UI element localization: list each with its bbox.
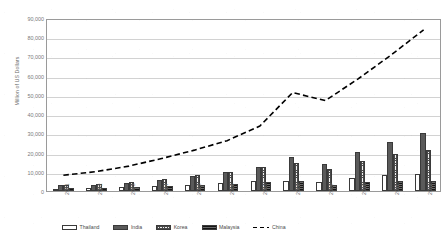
x-axis-tick-label: 2004 (163, 183, 169, 195)
legend-label: Malaysia (219, 224, 239, 230)
legend-item-korea: Korea (156, 224, 187, 230)
x-axis-tick-label: 2001 (64, 183, 70, 195)
legend-swatch-thailand (62, 225, 77, 230)
x-axis-tick-label: 2005 (196, 183, 202, 195)
y-axis-tick-label: 70,000 (28, 54, 45, 60)
x-axis-tick-label: 2011 (394, 184, 400, 195)
chart-legend: ThailandIndiaKoreaMalaysiaChina (46, 221, 441, 233)
legend-swatch-malaysia (202, 225, 217, 230)
legend-dashed-line-icon (253, 225, 269, 230)
legend-label: Korea (174, 224, 188, 230)
y-axis-tick-label: 20,000 (28, 151, 45, 157)
legend-item-malaysia: Malaysia (202, 224, 240, 230)
y-axis-tick-label: 90,000 (28, 16, 45, 22)
legend-label: India (131, 224, 142, 230)
legend-swatch-india (113, 225, 128, 230)
legend-swatch-korea (156, 225, 171, 230)
y-axis-tick-label: 80,000 (28, 35, 45, 41)
plot-area (46, 19, 441, 192)
y-axis-tick-label: 30,000 (28, 131, 45, 137)
x-axis-tick-label: 2012 (427, 183, 433, 195)
legend-label: Thailand (80, 224, 100, 230)
china-line-series (47, 20, 440, 191)
y-axis-tick-labels: 010,00020,00030,00040,00050,00060,00070,… (8, 0, 44, 200)
legend-item-india: India (113, 224, 142, 230)
x-axis-tick-label: 2002 (97, 183, 103, 195)
y-axis-tick-label: 10,000 (28, 170, 45, 176)
x-axis-tick-labels: 2001200220032004200520062007200820092010… (46, 193, 441, 219)
x-axis-tick-label: 2007 (262, 183, 268, 195)
legend-item-thailand: Thailand (62, 224, 99, 230)
y-axis-tick-label: 0 (41, 189, 44, 195)
legend-item-china: China (253, 224, 285, 230)
y-axis-tick-label: 40,000 (28, 112, 45, 118)
x-axis-tick-label: 2003 (130, 183, 136, 195)
legend-label: China (272, 224, 286, 230)
x-axis-tick-label: 2008 (295, 183, 301, 195)
x-axis-tick-label: 2006 (229, 183, 235, 195)
chart-container: Million of US Dollars 010,00020,00030,00… (0, 0, 447, 239)
x-axis-tick-label: 2009 (328, 183, 334, 195)
y-axis-tick-label: 50,000 (28, 93, 45, 99)
x-axis-tick-label: 2010 (361, 183, 367, 195)
y-axis-tick-label: 60,000 (28, 74, 45, 80)
